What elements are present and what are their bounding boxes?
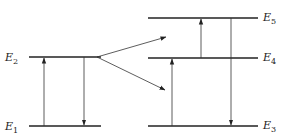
level-e5-label: E5 — [262, 11, 276, 26]
energy-level-diagram: E2 E1 E5 E4 E3 — [0, 0, 288, 140]
transfer-arrow-lower — [97, 57, 165, 90]
level-e3-label: E3 — [262, 119, 276, 134]
right-system: E5 E4 E3 — [148, 11, 276, 134]
transfer-arrow-upper — [97, 37, 166, 57]
level-e4-label: E4 — [262, 51, 276, 66]
energy-transfer — [97, 37, 166, 90]
left-system: E2 E1 — [4, 51, 101, 135]
level-e1-label: E1 — [4, 120, 18, 135]
level-e2-label: E2 — [4, 51, 18, 66]
